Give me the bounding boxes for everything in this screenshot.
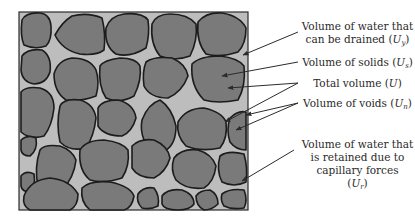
label-line: can be drained (Uy) bbox=[300, 33, 415, 50]
label-line: capillary forces bbox=[300, 164, 415, 177]
label-voids: Volume of voids (Un) bbox=[300, 97, 415, 114]
arrow-drainable-water bbox=[243, 32, 298, 55]
label-total-volume: Total volume (U) bbox=[300, 77, 415, 90]
arrow-voids-1 bbox=[246, 103, 298, 115]
arrow-retained-water bbox=[242, 150, 294, 181]
label-retained-water: Volume of water that is retained due to … bbox=[300, 138, 415, 194]
label-line: Volume of water that bbox=[300, 20, 415, 33]
label-line: is retained due to bbox=[300, 151, 415, 164]
label-solids: Volume of solids (Us) bbox=[300, 56, 415, 73]
label-line: Volume of water that bbox=[300, 138, 415, 151]
label-line: (Ur) bbox=[300, 177, 415, 194]
label-drainable-water: Volume of water that can be drained (Uy) bbox=[300, 20, 415, 50]
